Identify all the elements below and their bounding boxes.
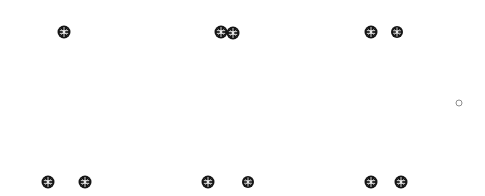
node-glyph-icon [242,176,254,188]
node-top-right-2[interactable] [391,26,403,38]
node-glyph-icon [227,27,240,40]
node-glyph-icon [79,176,92,189]
node-glyph-icon [42,176,55,189]
node-glyph-icon [58,26,71,39]
node-glyph-icon [395,176,408,189]
node-top-center-2[interactable] [227,27,240,40]
node-bottom-right-2[interactable] [395,176,408,189]
node-bottom-left-2[interactable] [79,176,92,189]
node-bottom-right-1[interactable] [365,176,378,189]
node-bottom-left-1[interactable] [42,176,55,189]
node-glyph-icon [202,176,215,189]
node-glyph-icon [365,176,378,189]
node-glyph-icon [365,26,378,39]
node-top-left-1[interactable] [58,26,71,39]
ring-middle-right[interactable] [456,100,463,107]
node-glyph-icon [391,26,403,38]
node-bottom-center-2[interactable] [242,176,254,188]
node-canvas [0,0,485,196]
node-top-right-1[interactable] [365,26,378,39]
node-bottom-center-1[interactable] [202,176,215,189]
